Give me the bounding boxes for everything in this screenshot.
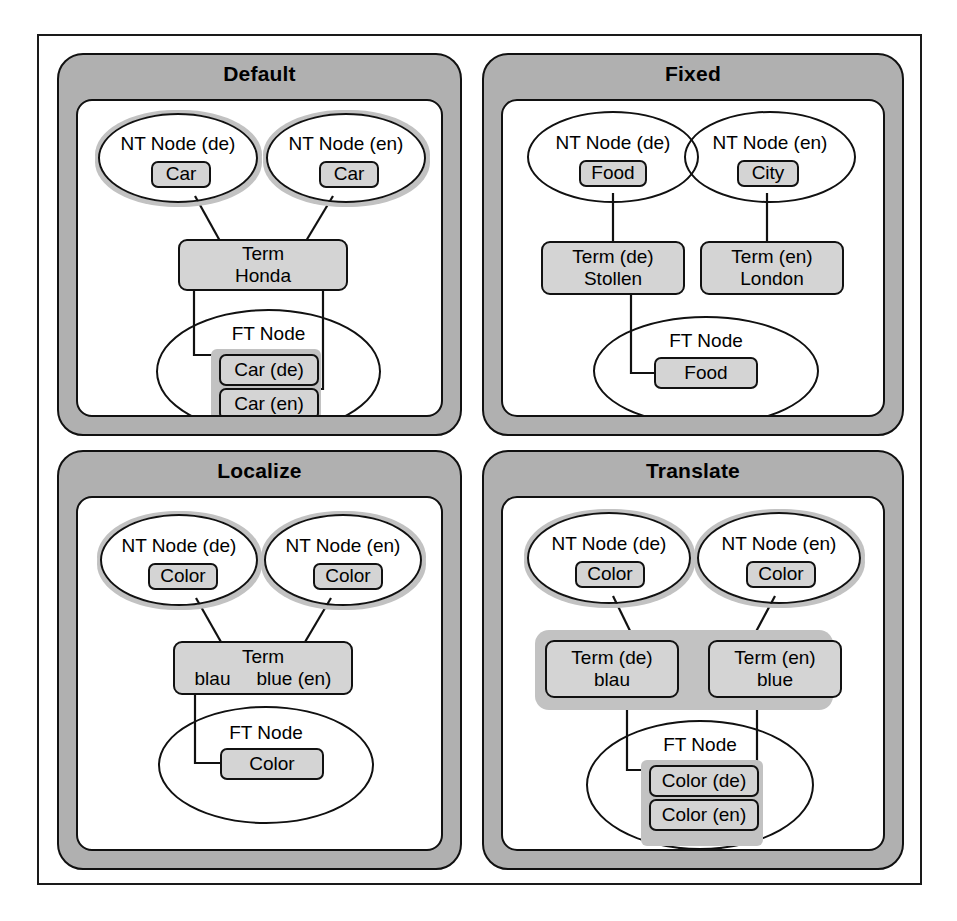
term-label-line1: Term xyxy=(242,646,284,668)
nt-node-en-box-fixed: City xyxy=(737,160,799,187)
ft-node-box-fixed: Food xyxy=(654,357,758,389)
diagram-canvas: Default NT Node (de) Car NT Node (en) Ca… xyxy=(0,0,957,921)
nt-node-en-box-translate: Color xyxy=(746,561,816,588)
term-de-line2: blau xyxy=(594,669,630,691)
nt-node-de-ellipse-translate xyxy=(527,512,691,604)
nt-node-en-box-default: Car xyxy=(319,161,379,188)
term-label-en: blue (en) xyxy=(256,668,331,690)
ft-node-label-default: FT Node xyxy=(156,323,381,345)
term-en-line2: London xyxy=(740,268,803,290)
panel-body-localize: NT Node (de) Color NT Node (en) Color Te… xyxy=(76,496,443,851)
panel-translate: Translate NT Node (de) Color NT Node (en… xyxy=(482,450,904,870)
ft-node-box-de-translate: Color (de) xyxy=(649,765,759,797)
panel-body-translate: NT Node (de) Color NT Node (en) Color Te… xyxy=(501,496,885,851)
term-box-de-fixed: Term (de) Stollen xyxy=(541,241,685,295)
nt-node-en-ellipse-fixed xyxy=(684,111,856,203)
panel-title-default: Default xyxy=(59,62,460,86)
panel-body-default: NT Node (de) Car NT Node (en) Car Term H… xyxy=(76,99,443,417)
outer-frame: Default NT Node (de) Car NT Node (en) Ca… xyxy=(37,34,922,885)
nt-node-de-ellipse-default xyxy=(98,113,258,203)
nt-node-de-label-localize: NT Node (de) xyxy=(100,535,258,557)
panel-title-translate: Translate xyxy=(484,459,902,483)
nt-node-en-label-fixed: NT Node (en) xyxy=(684,132,856,154)
nt-node-en-ellipse-translate xyxy=(697,512,861,604)
panel-title-fixed: Fixed xyxy=(484,62,902,86)
nt-node-en-label-default: NT Node (en) xyxy=(266,133,426,155)
ft-node-box-en-default: Car (en) xyxy=(219,388,319,417)
ft-node-label-fixed: FT Node xyxy=(593,330,819,352)
nt-node-de-ellipse-fixed xyxy=(527,111,699,203)
term-en-line2: blue xyxy=(757,669,793,691)
panel-fixed: Fixed NT Node (de) Food NT Node (en) Cit… xyxy=(482,53,904,436)
nt-node-de-label-fixed: NT Node (de) xyxy=(527,132,699,154)
panel-title-localize: Localize xyxy=(59,459,460,483)
term-label-line2: Honda xyxy=(235,265,291,287)
nt-node-en-ellipse-localize xyxy=(264,514,422,606)
nt-node-en-label-translate: NT Node (en) xyxy=(697,533,861,555)
nt-node-en-ellipse-default xyxy=(266,113,426,203)
term-de-line1: Term (de) xyxy=(571,647,652,669)
term-label-line1: Term xyxy=(242,243,284,265)
ft-node-label-translate: FT Node xyxy=(586,734,814,756)
panel-body-fixed: NT Node (de) Food NT Node (en) City Term… xyxy=(501,99,885,417)
nt-node-en-box-localize: Color xyxy=(313,563,383,590)
ft-node-box-localize: Color xyxy=(220,748,324,780)
term-box-localize: Term blau blue (en) xyxy=(173,641,353,695)
nt-node-de-box-default: Car xyxy=(151,161,211,188)
ft-node-label-localize: FT Node xyxy=(158,722,374,744)
term-de-line2: Stollen xyxy=(584,268,642,290)
nt-node-de-box-translate: Color xyxy=(575,561,645,588)
term-box-de-translate: Term (de) blau xyxy=(545,640,679,698)
nt-node-de-box-localize: Color xyxy=(148,563,218,590)
panel-default: Default NT Node (de) Car NT Node (en) Ca… xyxy=(57,53,462,436)
ft-node-box-de-default: Car (de) xyxy=(219,354,319,386)
panel-localize: Localize NT Node (de) Color NT Node (en)… xyxy=(57,450,462,870)
term-de-line1: Term (de) xyxy=(572,246,653,268)
nt-node-en-label-localize: NT Node (en) xyxy=(264,535,422,557)
nt-node-de-ellipse-localize xyxy=(100,514,258,606)
term-label-de: blau xyxy=(195,668,231,690)
nt-node-de-label-default: NT Node (de) xyxy=(98,133,258,155)
nt-node-de-box-fixed: Food xyxy=(579,160,647,187)
ft-node-box-en-translate: Color (en) xyxy=(649,799,759,831)
term-box-en-fixed: Term (en) London xyxy=(700,241,844,295)
nt-node-de-label-translate: NT Node (de) xyxy=(527,533,691,555)
term-en-line1: Term (en) xyxy=(734,647,815,669)
term-en-line1: Term (en) xyxy=(731,246,812,268)
term-box-en-translate: Term (en) blue xyxy=(708,640,842,698)
term-box-default: Term Honda xyxy=(178,239,348,291)
